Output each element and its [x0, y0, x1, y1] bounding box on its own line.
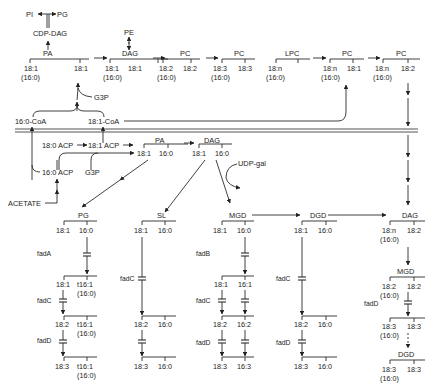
dgd-name: DGD [310, 211, 326, 220]
sn1-alt: (16:0) [266, 73, 285, 82]
eukaryotic-column: DAG 18:n (16:0) 18:2 MGD 18:2 (16:0) 18:… [364, 211, 425, 383]
sn1: 18:3 [134, 362, 148, 371]
sn1: 18:2 [159, 64, 173, 73]
sn1-alt: (16:0) [380, 374, 399, 383]
er-pc-183: PC 18:3 (16:0) 18:3 [211, 49, 255, 82]
pg-column: PG 18:1 16:0 fadA 18:1 t16:1 (16:0) fadC… [37, 211, 97, 380]
compound-name: LPC [285, 49, 300, 58]
sn1: 18:n [323, 64, 337, 73]
plastid-pa: PA 18:1 16:0 [137, 136, 188, 158]
compound-name: PA [43, 49, 52, 58]
sn1: 18:1 [134, 226, 148, 235]
sn2: 16:0 [215, 149, 229, 158]
sn2: 16:0 [79, 226, 93, 235]
acp-180-label: 18:0 ACP [42, 141, 73, 150]
er-g3p-label: G3P [94, 93, 109, 102]
sn1-alt: (16:0) [380, 235, 399, 244]
enzyme-fadd: fadD [37, 337, 51, 344]
coa-bracket [33, 105, 104, 117]
sn1-alt: (16:0) [380, 331, 399, 340]
enzyme-fadc: fadC [120, 275, 134, 282]
sn1-alt: (16:0) [21, 73, 40, 82]
sn1: 18:2 [382, 282, 396, 291]
sn1: 18:3 [382, 365, 396, 374]
er-pc-181: PC 18:n (16:0) 18:1 [321, 49, 364, 82]
sn1: 18:1 [294, 226, 308, 235]
sn1: 18:1 [214, 280, 228, 289]
sn1: 18:2 [294, 320, 308, 329]
sn2: 18:3 [238, 64, 252, 73]
sn1: 18:3 [294, 362, 308, 371]
sn2: t16:1 [77, 320, 93, 329]
mgd-column: MGD 18:1 16:0 fadB 18:1 16:1 fadC 18:2 1… [196, 211, 254, 371]
sn2: 18:2 [407, 282, 421, 291]
sn2: 16:0 [159, 149, 173, 158]
sn2: 18:2 [401, 64, 415, 73]
enzyme-fadd: fadD [196, 339, 210, 346]
sn2: 18:1 [128, 64, 142, 73]
udp-gal-label: UDP-gal [238, 159, 266, 168]
sn2: 16:0 [318, 226, 332, 235]
sn2: 16:1 [238, 280, 252, 289]
pg-label: PG [57, 10, 68, 19]
acp-181-label: 18:1 ACP [88, 141, 119, 150]
sn1: 18:n [268, 64, 282, 73]
c18-coa-label: 18:1-CoA [88, 117, 119, 126]
er-pc-182: PC 18:2 (16:0) 18:2 [157, 49, 200, 82]
sn1: 18:1 [24, 64, 38, 73]
sn1-alt: (16:0) [380, 291, 399, 300]
sn1-alt: (16:0) [211, 73, 230, 82]
sn1: 18:1 [192, 149, 206, 158]
sn1: 18:1 [213, 226, 227, 235]
arrow-pa-to-pg [82, 180, 120, 207]
arrow-dag-to-sl [165, 160, 205, 212]
sn1: 18:1 [105, 64, 119, 73]
sn1: 18:3 [213, 362, 227, 371]
sn2: 18:3 [407, 322, 421, 331]
sn2-alt: (16:0) [77, 371, 96, 380]
sn1: 18:3 [55, 362, 69, 371]
sn1: 18:1 [56, 280, 70, 289]
cdp-dag-branch: PI PG CDP-DAG [26, 10, 68, 50]
sn1: 18:n [375, 64, 389, 73]
pg-name: PG [78, 211, 89, 220]
sn2: 18:2 [407, 226, 421, 235]
compound-name: PC [234, 49, 245, 58]
cdp-dag-label: CDP-DAG [33, 29, 67, 38]
compound-name: DAG [122, 49, 138, 58]
sn2: t16:1 [77, 280, 93, 289]
arrow-to-er-pa [77, 83, 78, 100]
acetate-label: ACETATE [8, 199, 41, 208]
lipid-pathway-diagram: PI PG CDP-DAG PE PA 18:1 (16:0) 18:1 DAG… [0, 0, 436, 391]
euk-dgd-name: DGD [398, 350, 414, 359]
sn2: 16:0 [158, 226, 172, 235]
plastid-envelope [15, 129, 418, 132]
sl-column: SL 18:1 16:0 fadC 18:2 16:0 18:3 16:0 [120, 211, 176, 371]
arrow-acetate [45, 190, 57, 203]
enzyme-fadc: fadC [196, 297, 210, 304]
sn1: 18:3 [213, 64, 227, 73]
enzyme-fada: fadA [37, 250, 51, 257]
enzyme-fadc: fadC [37, 297, 51, 304]
sn2-alt: (16:0) [77, 329, 96, 338]
sn1-alt: (16:0) [321, 73, 340, 82]
pi-label: PI [26, 10, 33, 19]
sn2: 16:0 [237, 226, 251, 235]
acp-160-label: 16:0 ACP [42, 168, 73, 177]
plastid-dag: DAG 18:1 16:0 [192, 136, 232, 158]
dgd-column: DGD 18:1 16:0 fadC 18:2 16:0 fadD 18:3 1… [276, 211, 337, 371]
sn2: 16:0 [318, 362, 332, 371]
sn1: 18:n [382, 226, 396, 235]
sn2: 18:1 [347, 64, 361, 73]
enzyme-fadd: fadD [276, 339, 290, 346]
euk-mgd-name: MGD [397, 267, 414, 276]
sn1: 18:2 [134, 320, 148, 329]
arrow-coa-to-pc [124, 85, 346, 121]
plastid-g3p-label: G3P [85, 168, 100, 177]
sn1: 18:1 [137, 149, 151, 158]
c16-coa-label: 16:0-CoA [15, 117, 46, 126]
enzyme-fadb: fadB [196, 250, 210, 257]
compound-name: PC [342, 49, 353, 58]
euk-dag-name: DAG [402, 211, 418, 220]
sn1: 18:2 [55, 320, 69, 329]
